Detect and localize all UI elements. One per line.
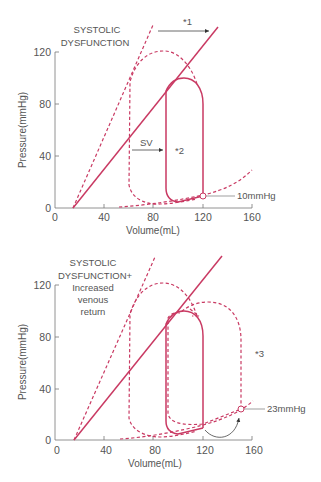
- espvr-normal-dashed: [73, 25, 153, 208]
- x-tick-40: 40: [98, 211, 110, 223]
- y-tick-120: 120: [33, 46, 51, 58]
- end-diastolic-point: [200, 193, 206, 199]
- annotation-star1: *1: [183, 16, 192, 27]
- chart-title-line2: DYSFUNCTION: [61, 37, 130, 48]
- y-axis-label: Pressure(mmHg): [17, 92, 28, 168]
- y-tick-40: 40: [39, 150, 51, 162]
- x-tick-160: 160: [245, 444, 263, 456]
- x-tick-0: 0: [54, 444, 60, 456]
- chart-systolic-dysfunction-venous-return: 120 80 40 0 0 40 80 120 160 Volume(mL) P…: [17, 256, 306, 469]
- x-axis-label: Volume(mL): [128, 458, 182, 469]
- annotation-star2: *2: [175, 145, 184, 156]
- annotation-star3: *3: [255, 348, 264, 359]
- pv-loop-figure: 120 80 40 0 0 40 80 120 160 Volume(mL) P…: [0, 0, 321, 482]
- edp-label-23mmhg: 23mmHg: [267, 403, 306, 414]
- y-tick-0: 0: [45, 434, 51, 446]
- y-tick-0: 0: [45, 202, 51, 214]
- x-tick-40: 40: [100, 444, 112, 456]
- chart-systolic-dysfunction: 120 80 40 0 0 40 80 120 160 Volume(mL) P…: [17, 16, 276, 236]
- y-tick-80: 80: [39, 331, 51, 343]
- x-tick-80: 80: [149, 444, 161, 456]
- sv-label: SV: [140, 137, 153, 148]
- chart-title-line5: return: [81, 306, 106, 317]
- edp-shift-arrow: [205, 418, 239, 437]
- end-diastolic-point: [238, 406, 244, 412]
- edpvr-curve: [119, 170, 252, 207]
- y-tick-40: 40: [39, 383, 51, 395]
- chart-title-line1: SYSTOLIC: [70, 257, 117, 268]
- y-ticks: [55, 285, 59, 389]
- y-tick-120: 120: [33, 279, 51, 291]
- espvr-dysfunction-solid: [73, 27, 218, 208]
- y-ticks: [55, 52, 59, 156]
- chart-title-line4: venous: [78, 294, 109, 305]
- axes: [55, 52, 252, 208]
- x-tick-160: 160: [243, 211, 261, 223]
- pv-loop-venous-return-dashed-lower: [168, 313, 241, 425]
- chart-title-line2: DYSFUNCTION+: [58, 270, 133, 281]
- y-axis-label: Pressure(mmHg): [17, 324, 28, 400]
- x-tick-120: 120: [194, 211, 212, 223]
- pv-loop-dysfunction-solid: [166, 78, 203, 202]
- pv-loop-normal-dashed: [129, 51, 197, 204]
- chart-title-line3: Increased: [72, 282, 114, 293]
- x-tick-120: 120: [196, 444, 214, 456]
- chart-title-line1: SYSTOLIC: [74, 24, 121, 35]
- pv-loop-venous-return-dashed: [180, 302, 241, 409]
- x-axis-label: Volume(mL): [126, 225, 180, 236]
- pv-loop-dysfunction-solid: [166, 311, 203, 434]
- x-tick-80: 80: [147, 211, 159, 223]
- edp-label-10mmhg: 10mmHg: [237, 190, 276, 201]
- y-tick-80: 80: [39, 98, 51, 110]
- x-tick-0: 0: [52, 211, 58, 223]
